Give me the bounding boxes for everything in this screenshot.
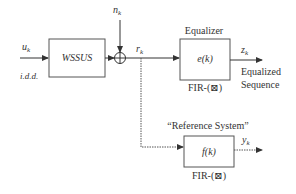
equalizer-output-label: zk [241, 45, 248, 57]
wssus-label: WSSUS [62, 53, 93, 63]
reference-title: “Reference System” [167, 121, 248, 131]
iid-note: i.d.d. [20, 72, 38, 81]
equalizer-title: Equalizer [185, 26, 223, 36]
equalized-sequence-line1: Equalized [241, 67, 281, 77]
reference-type-label: FIR-(⊠) [192, 171, 226, 181]
equalizer-type-label: FIR-(⊠) [188, 83, 222, 93]
block-diagram-lines [0, 0, 296, 194]
equalized-sequence-line2: Sequence [241, 80, 279, 90]
received-label: rk [136, 44, 143, 56]
reference-function-label: f(k) [202, 147, 216, 157]
input-label: uk [22, 42, 30, 54]
reference-branch-dotted [141, 58, 183, 147]
reference-output-label: yk [242, 135, 250, 147]
equalizer-function-label: e(k) [197, 54, 213, 64]
noise-label: nk [113, 5, 121, 17]
